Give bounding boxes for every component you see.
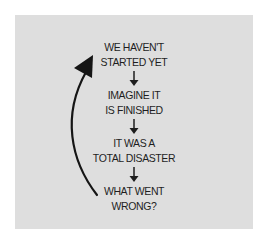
step-imagine-finished: IMAGINE IT IS FINISHED: [84, 88, 184, 117]
step-line: TOTAL DISASTER: [84, 151, 184, 166]
flow-column: WE HAVEN'T STARTED YET IMAGINE IT IS FIN…: [84, 40, 184, 213]
down-arrow-icon: [84, 118, 184, 135]
step-total-disaster: IT WAS A TOTAL DISASTER: [84, 136, 184, 165]
step-line: IMAGINE IT: [84, 88, 184, 103]
step-line: IT WAS A: [84, 136, 184, 151]
step-line: IS FINISHED: [84, 103, 184, 118]
down-arrow-icon: [84, 166, 184, 183]
down-arrow-icon: [84, 70, 184, 87]
step-what-went-wrong: WHAT WENT WRONG?: [84, 184, 184, 213]
step-line: WRONG?: [84, 199, 184, 214]
step-line: WHAT WENT: [84, 184, 184, 199]
step-line: WE HAVEN'T: [84, 40, 184, 55]
step-not-started: WE HAVEN'T STARTED YET: [84, 40, 184, 69]
step-line: STARTED YET: [84, 55, 184, 70]
